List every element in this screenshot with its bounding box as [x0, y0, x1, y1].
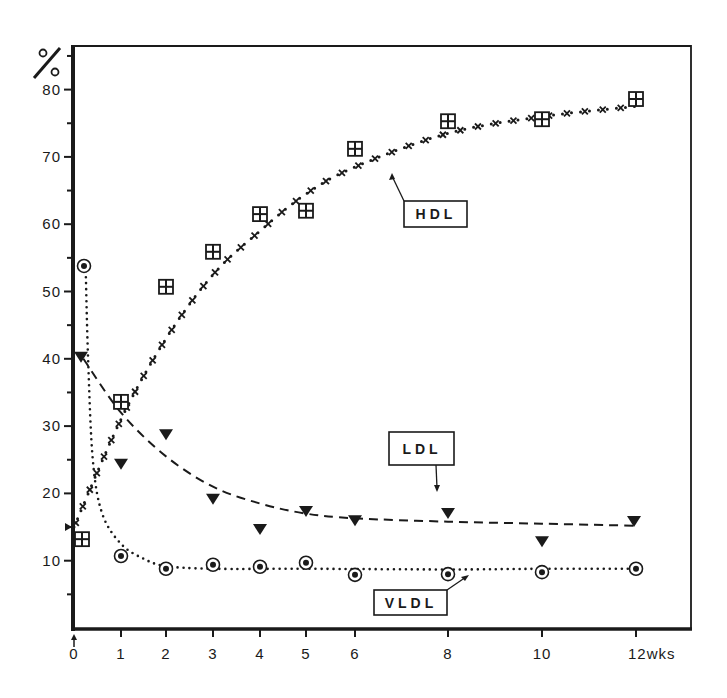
ldl-marker [535, 536, 549, 547]
hdl-cross-mark [457, 127, 463, 133]
x-tick-label: 4 [255, 645, 264, 662]
vldl-marker [442, 568, 455, 581]
x-tick-label: 3 [208, 645, 217, 662]
hdl-marker [206, 245, 220, 259]
y-tick-label: 50 [42, 283, 61, 300]
hdl-cross-mark [200, 283, 206, 289]
hdl-cross-mark [116, 421, 122, 427]
hdl-marker [159, 280, 173, 294]
hdl-cross-mark [80, 503, 86, 509]
hdl-marker [535, 112, 549, 126]
hdl-cross-mark [528, 115, 534, 121]
hdl-cross-mark [212, 269, 218, 275]
ldl-marker [114, 459, 128, 470]
hdl-cross-mark [189, 297, 195, 303]
hdl-marker [253, 207, 267, 221]
hdl-cross-mark [475, 123, 481, 129]
y-tick-label: 70 [42, 148, 61, 165]
y-tick-label: 60 [42, 215, 61, 232]
x-tick-label: 12wks [628, 645, 676, 662]
y-tick-label: 10 [42, 552, 61, 569]
hdl-cross-mark [238, 244, 244, 250]
hdl-cross-mark [225, 256, 231, 262]
hdl-cross-mark [87, 487, 93, 493]
ldl-label: LDL [402, 441, 441, 457]
hdl-cross-mark [406, 143, 412, 149]
y-tick-label: 40 [42, 350, 61, 367]
x-tick-label: 5 [301, 645, 310, 662]
hdl-marker [629, 92, 643, 106]
plot-frame [73, 46, 691, 629]
percent-sign-icon [34, 48, 60, 78]
hdl-cross-mark [293, 198, 299, 204]
vldl-marker [300, 556, 313, 569]
plot-border [73, 46, 691, 629]
hdl-marker [75, 532, 89, 546]
hdl-cross-mark [564, 110, 570, 116]
hdl-cross-mark [355, 163, 361, 169]
hdl-marker [114, 395, 128, 409]
vldl-label: VLDL [385, 595, 438, 611]
x-tick-label: 0 [69, 645, 78, 662]
y-tick-label: 30 [42, 417, 61, 434]
hdl-cross-mark [252, 233, 258, 239]
hdl-cross-mark [108, 437, 114, 443]
y-tick-label: 20 [42, 484, 61, 501]
hdl-cross-mark [493, 120, 499, 126]
hdl-cross-mark [510, 118, 516, 124]
hdl-cross-mark [339, 170, 345, 176]
vldl-marker [207, 558, 220, 571]
hdl-cross-mark [423, 137, 429, 143]
hdl-label-box: HDL [389, 173, 467, 227]
x-tick-label: 1 [116, 645, 125, 662]
hdl-label: HDL [416, 206, 457, 222]
fit-curves [73, 105, 636, 570]
vldl-marker [115, 549, 128, 562]
hdl-cross-mark [372, 156, 378, 162]
vldl-marker [78, 259, 91, 272]
y-tick-label: 80 [42, 81, 61, 98]
hdl-marker [299, 204, 313, 218]
x-tick-label: 6 [350, 645, 359, 662]
hdl-cross-mark [141, 373, 147, 379]
hdl-cross-mark [323, 178, 329, 184]
ldl-marker [253, 524, 267, 535]
hdl-cross-mark [279, 209, 285, 215]
up-arrow-icon [71, 634, 77, 640]
hdl-cross-mark [389, 149, 395, 155]
ldl-fit-curve [83, 359, 636, 526]
ldl-label-box: LDL [389, 432, 454, 492]
hdl-cross-mark [618, 105, 624, 111]
y-axis-arrow-icon [65, 523, 72, 531]
hdl-fit-curve [74, 106, 636, 527]
x-tick-label: 10 [533, 645, 552, 662]
vldl-marker [630, 562, 643, 575]
ldl-marker [206, 494, 220, 505]
hdl-cross-mark [132, 389, 138, 395]
hdl-marker [348, 142, 362, 156]
x-tick-label: 8 [443, 645, 452, 662]
vldl-marker [254, 560, 267, 573]
ldl-marker [441, 508, 455, 519]
hdl-cross-mark [600, 107, 606, 113]
hdl-cross-mark [159, 342, 165, 348]
ldl-marker [159, 429, 173, 440]
axes: 1020304050607080012345681012wks [42, 45, 692, 662]
vldl-marker [349, 568, 362, 581]
hdl-cross-mark [440, 132, 446, 138]
vldl-marker [536, 566, 549, 579]
vldl-marker [160, 562, 173, 575]
lipoprotein-chart: 1020304050607080012345681012wks HDL LDL … [0, 0, 727, 698]
hdl-cross-mark [582, 108, 588, 114]
hdl-cross-mark [150, 357, 156, 363]
annotations: HDL LDL VLDL [374, 173, 469, 615]
hdl-cross-mark [179, 312, 185, 318]
hdl-cross-mark [169, 327, 175, 333]
vldl-label-box: VLDL [374, 575, 469, 615]
hdl-marker [441, 114, 455, 128]
x-tick-label: 2 [161, 645, 170, 662]
ldl-marker [348, 515, 362, 526]
hdl-cross-mark [308, 188, 314, 194]
hdl-cross-mark [101, 454, 107, 460]
